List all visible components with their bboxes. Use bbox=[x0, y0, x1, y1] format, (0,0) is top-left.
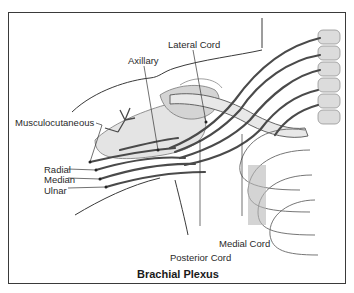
spine bbox=[318, 30, 340, 124]
label-axillary: Axillary bbox=[128, 56, 159, 66]
label-posterior-cord: Posterior Cord bbox=[170, 253, 231, 263]
label-musculocutaneous: Musculocutaneous bbox=[15, 118, 94, 128]
label-medial-cord: Medial Cord bbox=[219, 239, 270, 249]
label-lateral-cord: Lateral Cord bbox=[168, 40, 220, 50]
label-median: Median bbox=[44, 175, 75, 185]
figure-title: Brachial Plexus bbox=[137, 269, 219, 280]
label-ulnar: Ulnar bbox=[44, 186, 67, 196]
